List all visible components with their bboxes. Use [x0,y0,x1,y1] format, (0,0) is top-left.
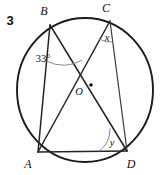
problem-number: 3 [6,13,13,28]
vertex-label-d: D [126,157,136,171]
angle-arc-at-b [47,60,82,65]
angle-label-33-degrees: 33° [36,53,51,64]
angle-label-x: x [104,32,110,43]
circle-center-dot [89,83,93,87]
vertex-label-a: A [23,157,32,171]
vertex-label-c: C [102,1,111,15]
angle-label-y: y [109,137,115,148]
vertex-label-b: B [40,4,48,18]
geometry-figure-svg: B C A D O 33° x y 3 [0,0,167,175]
center-label-o: O [75,86,83,97]
chord-c-to-d [110,21,127,151]
circumscribed-circle [17,18,153,162]
angle-arc-at-d [99,128,110,151]
chord-a-to-d [38,151,127,152]
geometry-figure-container: B C A D O 33° x y 3 [0,0,167,175]
chord-b-to-d [50,25,127,151]
